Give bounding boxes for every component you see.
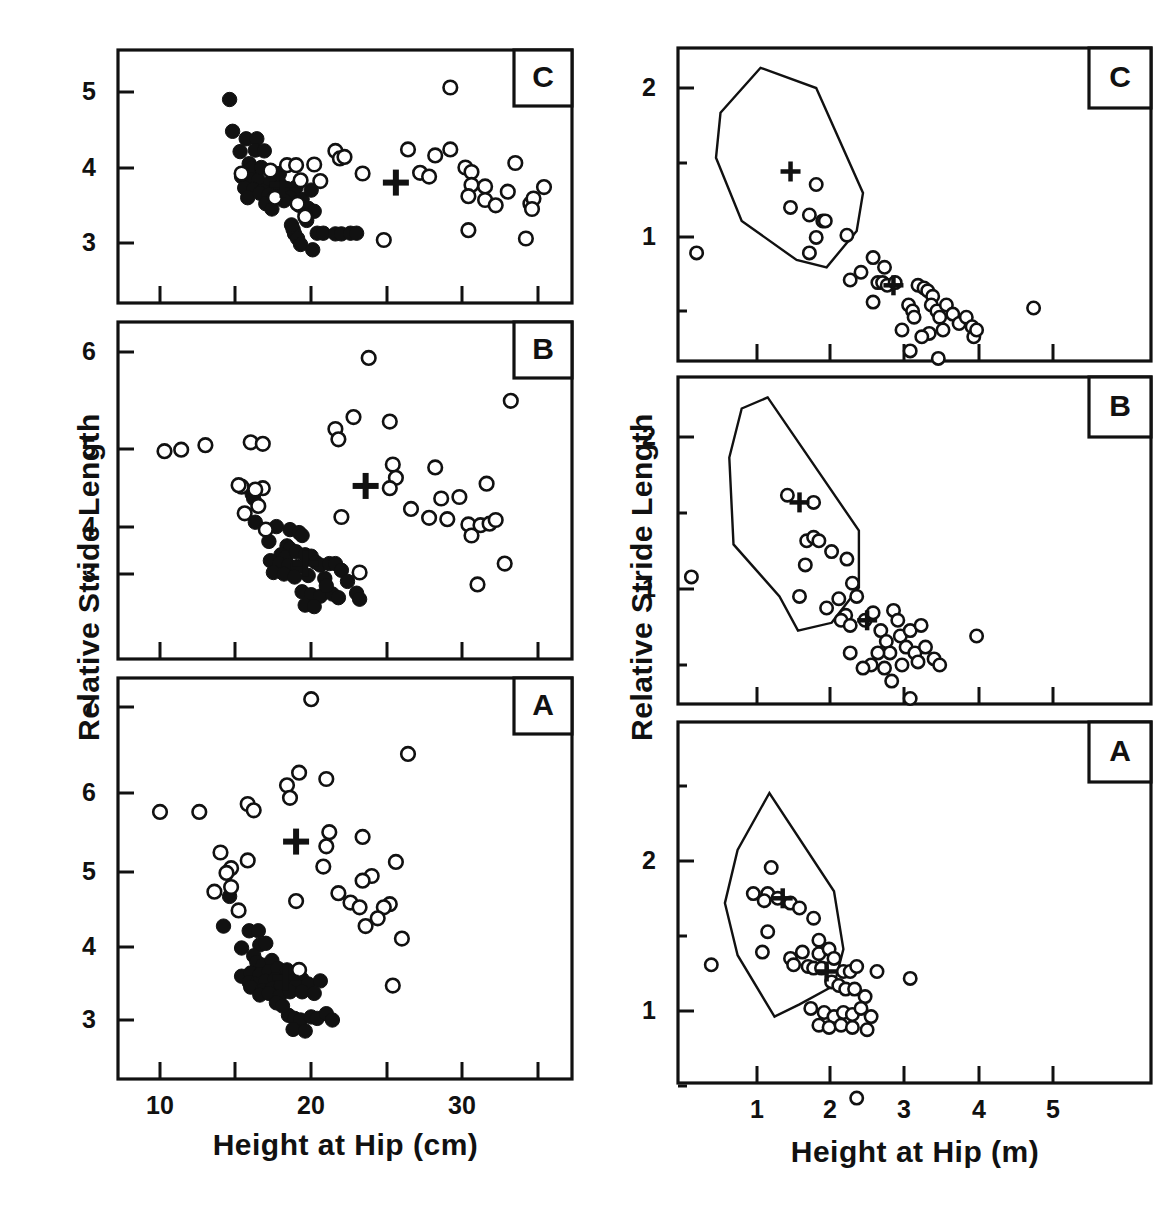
y-tick-label: 6 <box>72 339 106 364</box>
data-point-open <box>462 223 476 237</box>
data-point-filled <box>298 1024 312 1038</box>
data-point-open <box>317 860 331 874</box>
x-tick-label: 1 <box>735 1097 779 1122</box>
data-point-open <box>793 590 805 602</box>
data-point-open <box>915 619 927 631</box>
panel-letter-b: B <box>1089 391 1151 421</box>
data-point-open <box>537 180 551 194</box>
data-point-open <box>934 659 946 671</box>
data-point-filled <box>307 599 321 613</box>
data-point-open <box>796 946 808 958</box>
data-point-open <box>335 510 349 524</box>
x-axis-title-left: Height at Hip (cm) <box>118 1128 573 1162</box>
data-point-open <box>422 511 436 525</box>
data-point-open <box>153 805 167 819</box>
data-point-open <box>462 189 476 203</box>
data-point-open <box>1027 302 1039 314</box>
data-point-open <box>756 946 768 958</box>
data-point-open <box>825 545 837 557</box>
figure-root: Relative Stride Length Relative Stride L… <box>0 0 1174 1219</box>
data-point-open <box>238 507 252 521</box>
data-point-open <box>232 904 246 918</box>
y-tick-label: 3 <box>72 230 106 255</box>
y-tick-label: 3 <box>72 1007 106 1032</box>
data-point-open <box>220 866 234 880</box>
data-point-open <box>896 659 908 671</box>
panel-letter-c: C <box>514 62 572 92</box>
data-point-open <box>519 232 533 246</box>
data-point-open <box>362 351 376 365</box>
data-point-open <box>867 251 879 263</box>
data-point-filled <box>331 591 345 605</box>
data-point-open <box>489 513 503 527</box>
data-point-filled <box>275 999 289 1013</box>
data-point-open <box>453 490 467 504</box>
data-point-open <box>480 477 494 491</box>
data-point-open <box>970 324 982 336</box>
data-point-open <box>872 647 884 659</box>
data-point-open <box>294 174 308 188</box>
data-point-open <box>199 438 213 452</box>
data-point-open <box>846 577 858 589</box>
data-point-open <box>292 766 306 780</box>
y-tick-label: 4 <box>72 155 106 180</box>
panel-letter-c: C <box>1089 62 1151 92</box>
data-point-open <box>803 209 815 221</box>
data-point-filled <box>284 218 298 232</box>
data-point-open <box>208 885 222 899</box>
data-point-open <box>389 855 403 869</box>
data-point-open <box>353 901 367 915</box>
data-point-open <box>803 247 815 259</box>
data-point-open <box>865 1010 877 1022</box>
data-point-open <box>886 675 898 687</box>
y-tick-label: 3 <box>72 561 106 586</box>
data-point-open <box>292 963 306 977</box>
data-point-open <box>320 772 334 786</box>
data-point-open <box>884 647 896 659</box>
data-point-open <box>878 662 890 674</box>
data-point-open <box>762 926 774 938</box>
data-point-open <box>353 566 367 580</box>
y-tick-label: 5 <box>72 436 106 461</box>
data-point-open <box>422 170 436 184</box>
data-point-open <box>904 972 916 984</box>
panel-frame <box>118 322 572 659</box>
data-point-open <box>359 919 373 933</box>
data-point-open <box>690 247 702 259</box>
data-point-open <box>810 231 822 243</box>
data-point-open <box>289 894 303 908</box>
data-point-open <box>871 965 883 977</box>
data-point-open <box>232 478 246 492</box>
panel-letter-b: B <box>514 334 572 364</box>
data-point-open <box>383 481 397 495</box>
data-point-open <box>916 331 928 343</box>
data-point-open <box>685 571 697 583</box>
data-point-open <box>810 178 822 190</box>
data-point-open <box>249 483 263 497</box>
y-tick-label: 7 <box>72 694 106 719</box>
data-point-open <box>444 81 458 95</box>
data-point-open <box>478 180 492 194</box>
data-point-filled <box>349 226 363 240</box>
y-tick-label: 2 <box>632 424 666 449</box>
y-tick-label: 1 <box>632 224 666 249</box>
data-point-open <box>193 805 207 819</box>
data-point-open <box>264 164 278 178</box>
data-point-open <box>283 791 297 805</box>
panel-left-C <box>118 50 572 303</box>
x-tick-label: 20 <box>289 1093 333 1118</box>
y-tick-label: 2 <box>632 848 666 873</box>
y-tick-label: 1 <box>632 576 666 601</box>
data-point-open <box>851 960 863 972</box>
data-point-open <box>289 158 303 172</box>
data-point-open <box>465 165 479 179</box>
data-point-open <box>259 523 273 537</box>
data-point-open <box>787 959 799 971</box>
data-point-open <box>912 656 924 668</box>
panel-right-A <box>678 722 1151 1104</box>
x-tick-label: 10 <box>138 1093 182 1118</box>
data-point-open <box>820 602 832 614</box>
data-point-open <box>386 458 400 472</box>
data-point-open <box>320 840 334 854</box>
data-point-open <box>937 324 949 336</box>
